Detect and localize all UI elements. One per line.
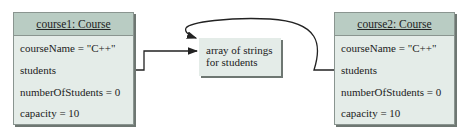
object-course2: course2: Course courseName = "C++" stude… — [334, 12, 455, 125]
array-box: array of strings for students — [199, 38, 281, 76]
array-label-line2: for students — [206, 56, 281, 68]
object-title: course1: Course — [36, 18, 110, 30]
object-title: course2: Course — [357, 18, 431, 30]
object-header: course1: Course — [14, 13, 133, 36]
field-students: students — [20, 64, 56, 76]
field-numberofstudents: numberOfStudents = 0 — [341, 86, 441, 98]
field-coursename: courseName = "C++" — [341, 42, 436, 54]
field-numberofstudents: numberOfStudents = 0 — [20, 86, 120, 98]
field-capacity: capacity = 10 — [341, 107, 400, 119]
field-students: students — [341, 64, 377, 76]
field-capacity: capacity = 10 — [20, 107, 79, 119]
object-course1: course1: Course courseName = "C++" stude… — [13, 12, 134, 125]
array-label-line1: array of strings — [206, 44, 281, 56]
object-header: course2: Course — [335, 13, 454, 36]
field-coursename: courseName = "C++" — [20, 42, 115, 54]
